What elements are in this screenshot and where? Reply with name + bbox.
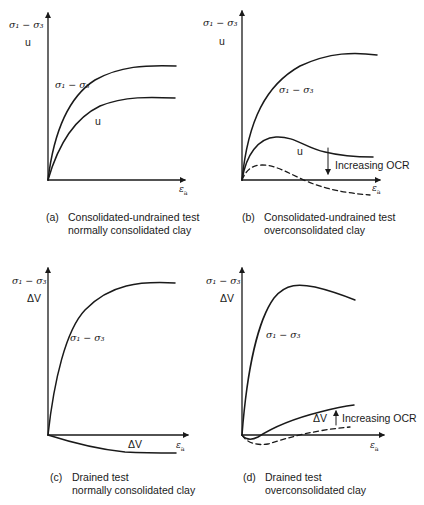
panel-d-y-label-deviator: σ₁ − σ₃ bbox=[206, 276, 241, 286]
panel-a-curve-label-u: u bbox=[95, 116, 101, 127]
panel-c-caption: (c)Drained test normally consolidated cl… bbox=[50, 471, 195, 497]
panel-b-caption-line2: overconsolidated clay bbox=[242, 224, 395, 237]
panel-d-volume-change-low-ocr-curve bbox=[242, 427, 350, 445]
panel-d-ocr-annotation: Increasing OCR bbox=[342, 413, 417, 424]
panel-d-x-label: εa bbox=[370, 441, 379, 452]
panel-d-caption-line2: overconsolidated clay bbox=[243, 484, 366, 497]
panel-c-caption-line2: normally consolidated clay bbox=[50, 484, 195, 497]
panel-d-deviator-curve bbox=[242, 285, 355, 435]
panel-a-caption-line1: Consolidated-undrained test bbox=[68, 211, 199, 223]
panel-c-curve-label-deviator: σ₁ − σ₃ bbox=[70, 333, 105, 343]
panel-c-y-label-deviator: σ₁ − σ₃ bbox=[12, 276, 47, 286]
panel-c-caption-tag: (c) bbox=[50, 471, 72, 484]
panel-d-caption-line1: Drained test bbox=[265, 471, 322, 483]
panel-a-caption: (a)Consolidated-undrained test normally … bbox=[46, 211, 199, 237]
panel-d-caption-tag: (d) bbox=[243, 471, 265, 484]
panel-b-x-label: εa bbox=[372, 184, 381, 195]
panel-a-pore-pressure-curve bbox=[48, 97, 175, 180]
panel-c-curve-label-dv: ΔV bbox=[128, 439, 142, 450]
panel-d-volume-change-curve bbox=[242, 405, 354, 439]
panel-b-axes bbox=[242, 11, 380, 180]
panel-c-volume-change-curve bbox=[48, 435, 176, 453]
figure-curves bbox=[0, 0, 424, 505]
panel-b-curve-label-deviator: σ₁ − σ₃ bbox=[279, 85, 314, 95]
panel-a-curve-label-deviator: σ₁ − σ₃ bbox=[55, 80, 90, 90]
panel-c-caption-line1: Drained test bbox=[72, 471, 129, 483]
panel-d-axes bbox=[242, 268, 384, 435]
panel-a-y-label-u: u bbox=[25, 37, 31, 48]
panel-b-y-label-deviator: σ₁ − σ₃ bbox=[203, 18, 238, 28]
panel-c-y-label-dv: ΔV bbox=[27, 293, 41, 304]
panel-a-y-label-deviator: σ₁ − σ₃ bbox=[9, 20, 44, 30]
panel-b-curve-label-u: u bbox=[297, 146, 303, 157]
panel-b-y-label-u: u bbox=[219, 36, 225, 47]
panel-d-curve-label-deviator: σ₁ − σ₃ bbox=[266, 330, 301, 340]
panel-d-curve-label-dv: ΔV bbox=[313, 413, 327, 424]
panel-b-caption-tag: (b) bbox=[242, 211, 264, 224]
panel-b-caption-line1: Consolidated-undrained test bbox=[264, 211, 395, 223]
panel-b-ocr-annotation: Increasing OCR bbox=[335, 160, 410, 171]
panel-a-x-label: εa bbox=[179, 185, 188, 196]
panel-a-caption-line2: normally consolidated clay bbox=[46, 224, 199, 237]
panel-c-axes bbox=[48, 268, 188, 435]
panel-b-caption: (b)Consolidated-undrained test overconso… bbox=[242, 211, 395, 237]
panel-c-x-label: εa bbox=[176, 441, 185, 452]
panel-d-y-label-dv: ΔV bbox=[220, 293, 234, 304]
panel-d-caption: (d)Drained test overconsolidated clay bbox=[243, 471, 366, 497]
panel-a-axes bbox=[48, 13, 185, 180]
panel-c-deviator-curve bbox=[48, 282, 175, 435]
panel-a-caption-tag: (a) bbox=[46, 211, 68, 224]
